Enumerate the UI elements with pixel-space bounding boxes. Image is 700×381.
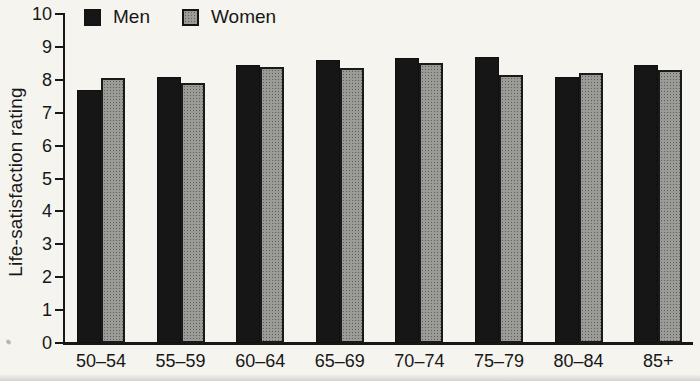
y-tick-label-1: 1 [0, 299, 52, 321]
bar-women-8 [658, 70, 682, 343]
bar-women-2 [181, 83, 205, 343]
y-tick-label-4: 4 [0, 200, 52, 222]
bar-chart-figure: Life-satisfaction rating MenWomen 012345… [0, 0, 700, 381]
legend: MenWomen [84, 7, 276, 27]
bar-men-3 [236, 65, 260, 343]
y-tick-label-6: 6 [0, 135, 52, 157]
bar-men-6 [475, 57, 499, 343]
legend-label-women: Women [211, 7, 276, 27]
y-tick-label-9: 9 [0, 36, 52, 58]
x-axis-label-4: 65–69 [300, 351, 380, 372]
bar-men-7 [555, 77, 579, 343]
y-tick-label-3: 3 [0, 233, 52, 255]
y-tick-label-5: 5 [0, 168, 52, 190]
x-axis-label-6: 75–79 [459, 351, 539, 372]
y-axis-line [63, 13, 65, 344]
bar-women-3 [260, 67, 284, 343]
x-axis-label-1: 50–54 [61, 351, 141, 372]
page-edge-shadow [0, 374, 700, 381]
y-tick-label-10: 10 [0, 3, 52, 25]
x-axis-label-2: 55–59 [141, 351, 221, 372]
bar-women-1 [101, 78, 125, 343]
y-tick-label-7: 7 [0, 102, 52, 124]
bar-women-4 [340, 68, 364, 343]
legend-item-men: Men [84, 7, 150, 27]
y-tick-label-2: 2 [0, 266, 52, 288]
x-axis-label-5: 70–74 [379, 351, 459, 372]
bar-men-2 [157, 77, 181, 343]
bar-women-6 [499, 75, 523, 343]
bar-men-5 [395, 58, 419, 343]
legend-label-men: Men [113, 7, 150, 27]
x-axis-label-3: 60–64 [220, 351, 300, 372]
legend-swatch-men [84, 9, 101, 26]
x-axis-label-7: 80–84 [539, 351, 619, 372]
legend-swatch-women [182, 9, 199, 26]
legend-item-women: Women [182, 7, 276, 27]
bar-men-4 [316, 60, 340, 343]
bar-women-5 [419, 63, 443, 343]
bar-men-1 [77, 90, 101, 343]
bar-men-8 [634, 65, 658, 343]
x-axis-label-8: 85+ [618, 351, 698, 372]
bar-women-7 [579, 73, 603, 343]
y-tick-label-8: 8 [0, 69, 52, 91]
